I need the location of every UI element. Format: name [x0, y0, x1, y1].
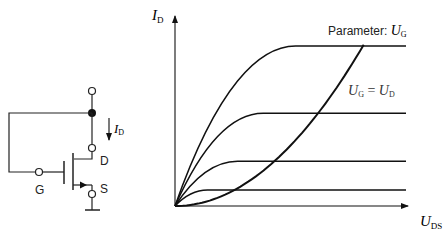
parameter-label: Parameter: UG: [328, 23, 407, 39]
diagram-canvas: ID D G S ID UDS Parameter: UG UG = UD: [0, 0, 446, 235]
y-axis-label: ID: [151, 7, 164, 25]
gate-terminal: [36, 169, 43, 176]
x-axis-label: UDS: [420, 213, 442, 231]
drain-lead: [74, 152, 92, 160]
top-terminal: [89, 88, 96, 95]
characteristic-curves: [175, 45, 406, 206]
mosfet-circuit: [9, 88, 109, 211]
characteristic-curve-3: [175, 113, 406, 206]
boundary-label: UG = UD: [348, 83, 395, 99]
source-terminal: [89, 191, 96, 198]
characteristic-curve-1: [175, 190, 406, 206]
plot-axes: [175, 16, 408, 206]
characteristic-curve-2: [175, 161, 406, 206]
source-label: S: [100, 182, 108, 196]
drain-terminal: [89, 145, 96, 152]
gate-label: G: [35, 183, 44, 197]
feedback-wire: [9, 113, 92, 172]
characteristic-curve-4: [175, 46, 406, 206]
current-label: ID: [113, 121, 124, 137]
drain-label: D: [100, 154, 109, 168]
source-arrow-icon: [80, 182, 87, 189]
boundary-curve: [175, 45, 364, 206]
